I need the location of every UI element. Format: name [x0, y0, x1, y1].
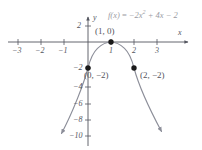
graph-figure: f(x) = −2x2 + 4x − 2 y x −3 −2 −1 1 2 3 …	[0, 0, 202, 150]
y-axis	[85, 17, 91, 146]
x-tick-label--3: −3	[12, 47, 21, 55]
x-axis-label: x	[178, 29, 182, 37]
formula-equals: =	[122, 10, 127, 20]
y-axis-label: y	[93, 14, 97, 22]
formula-term1: −2x	[129, 10, 143, 20]
formula-fx: f(x)	[108, 10, 120, 20]
x-tick-label-1: 1	[109, 47, 113, 55]
y-tick-label--8: −8	[73, 116, 82, 124]
formula-term2: + 4x − 2	[148, 10, 178, 20]
x-tick-label--2: −2	[35, 47, 44, 55]
x-axis	[8, 39, 188, 45]
y-tick-label--6: −6	[73, 100, 82, 108]
point-symmetric	[131, 65, 136, 70]
y-tick-label--4: −4	[73, 83, 82, 91]
formula-exponent: 2	[143, 9, 146, 15]
x-tick-label--1: −1	[58, 47, 67, 55]
parabola-right-branch	[111, 42, 162, 132]
x-tick-label-3: 3	[155, 47, 159, 55]
point-label-y-intercept: (0, −2)	[84, 71, 109, 80]
point-vertex	[108, 39, 113, 44]
y-tick-label--2: −2	[73, 64, 82, 72]
y-tick-label-2: 2	[77, 22, 81, 30]
point-label-vertex: (1, 0)	[95, 27, 115, 36]
point-label-symmetric: (2, −2)	[140, 71, 165, 80]
x-tick-label-2: 2	[132, 47, 136, 55]
function-formula: f(x) = −2x2 + 4x − 2	[108, 9, 178, 19]
y-tick-label--10: −10	[69, 132, 82, 140]
